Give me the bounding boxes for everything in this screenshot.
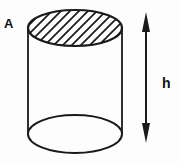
diagram-svg: A h [0,0,179,165]
area-label-A: A [4,16,14,31]
arrow-head-down-icon [142,123,150,143]
arrow-head-up-icon [142,12,150,32]
cylinder-diagram: A h [0,0,179,165]
cylinder-bottom-ellipse [28,115,122,153]
height-label-h: h [162,75,171,91]
cylinder-top-ellipse-hatched [28,10,122,46]
cylinder-shape [28,10,122,153]
height-arrow [142,12,150,143]
